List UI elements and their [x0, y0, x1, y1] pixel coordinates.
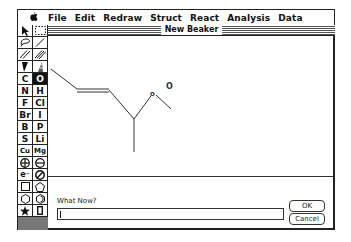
beaker-window: New Beaker o O What Now? OK Cancel	[48, 25, 335, 230]
hexagon-ring-tool[interactable]	[18, 193, 33, 205]
star-icon	[20, 206, 30, 216]
single-bond-tool[interactable]	[33, 37, 48, 49]
command-input[interactable]	[57, 208, 284, 220]
electron-tool[interactable]: e⁻	[18, 169, 33, 181]
minus-circle-icon	[35, 158, 45, 168]
marquee-tool[interactable]	[33, 25, 48, 37]
element-Cl[interactable]: Cl	[33, 97, 48, 109]
cancel-button[interactable]: Cancel	[289, 213, 325, 225]
wedge-icon	[21, 62, 29, 72]
atom-label-O[interactable]: O	[166, 82, 173, 91]
text-caret	[60, 211, 61, 218]
arrow-icon	[21, 26, 30, 36]
plus-circle-icon	[20, 158, 30, 168]
single-bond-icon	[35, 38, 45, 47]
arrow-tool[interactable]	[18, 25, 33, 37]
rectangle-tool[interactable]	[33, 205, 48, 217]
pentagon-icon	[35, 182, 45, 192]
menu-struct[interactable]: Struct	[150, 13, 182, 23]
prompt-label: What Now?	[57, 197, 97, 205]
screen: File Edit Redraw Struct React Analysis D…	[17, 9, 335, 230]
menu-file[interactable]: File	[48, 13, 67, 23]
element-F[interactable]: F	[18, 97, 33, 109]
element-O[interactable]: O	[33, 73, 48, 85]
menu-data[interactable]: Data	[278, 13, 302, 23]
menu-redraw[interactable]: Redraw	[103, 13, 142, 23]
ok-button[interactable]: OK	[289, 200, 325, 212]
hexagon-icon	[21, 194, 30, 204]
molecule-structure[interactable]	[51, 69, 171, 152]
triple-bond-icon	[35, 50, 46, 59]
hash-bond-tool[interactable]	[33, 61, 48, 73]
dialog-separator	[48, 176, 335, 177]
element-Mg[interactable]: Mg	[33, 145, 48, 157]
star-tool[interactable]	[18, 205, 33, 217]
triple-bond-tool[interactable]	[33, 49, 48, 61]
element-H[interactable]: H	[33, 85, 48, 97]
square-icon	[21, 182, 30, 191]
menu-react[interactable]: React	[190, 13, 219, 23]
element-Br[interactable]: Br	[18, 109, 33, 121]
positive-charge-tool[interactable]	[18, 157, 33, 169]
tool-palette: C O N H F Cl Br I B P S Li Cu Mg e⁻	[18, 25, 49, 230]
negative-charge-tool[interactable]	[33, 157, 48, 169]
element-B[interactable]: B	[18, 121, 33, 133]
square-ring-tool[interactable]	[18, 181, 33, 193]
element-C[interactable]: C	[18, 73, 33, 85]
wedge-bond-tool[interactable]	[18, 61, 33, 73]
benzene-ring-tool[interactable]	[33, 193, 48, 205]
drawing-canvas[interactable]: o O	[48, 36, 335, 176]
element-N[interactable]: N	[18, 85, 33, 97]
window-titlebar[interactable]: New Beaker	[48, 25, 335, 36]
double-bond-tool[interactable]	[18, 49, 33, 61]
atom-label-o[interactable]: o	[150, 90, 155, 98]
no-symbol-icon	[35, 170, 45, 180]
element-Cu[interactable]: Cu	[18, 145, 33, 157]
element-I[interactable]: I	[33, 109, 48, 121]
element-Li[interactable]: Li	[33, 133, 48, 145]
window-title: New Beaker	[161, 25, 223, 35]
menu-edit[interactable]: Edit	[75, 13, 95, 23]
window-bottom-border	[48, 228, 335, 230]
marquee-icon	[35, 26, 46, 35]
menu-analysis[interactable]: Analysis	[227, 13, 270, 23]
element-P[interactable]: P	[33, 121, 48, 133]
element-S[interactable]: S	[18, 133, 33, 145]
rectangle-icon	[37, 206, 43, 215]
window-right-border	[333, 36, 335, 230]
apple-menu-icon[interactable]	[28, 12, 40, 23]
hash-wedge-icon	[36, 62, 44, 72]
menubar: File Edit Redraw Struct React Analysis D…	[18, 10, 334, 26]
erase-tool[interactable]	[33, 169, 48, 181]
double-bond-icon	[20, 50, 30, 59]
palette-footer	[18, 217, 48, 230]
lasso-tool[interactable]	[18, 37, 33, 49]
pentagon-ring-tool[interactable]	[33, 181, 48, 193]
benzene-icon	[36, 194, 45, 204]
lasso-icon	[20, 38, 31, 47]
